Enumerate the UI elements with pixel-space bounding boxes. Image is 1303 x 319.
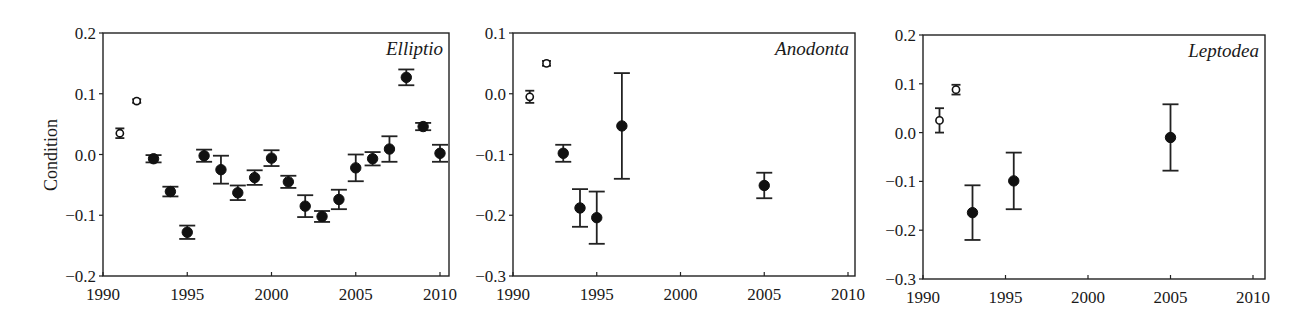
marker-filled (592, 212, 602, 222)
data-point-open (935, 108, 944, 132)
y-tick-label: −0.3 (475, 267, 506, 286)
y-tick-label: −0.2 (885, 221, 916, 240)
x-tick-label: 2010 (831, 285, 865, 304)
marker-filled (317, 211, 327, 221)
x-tick-label: 1990 (86, 285, 120, 304)
marker-filled (148, 154, 158, 164)
marker-filled (401, 72, 411, 82)
x-tick-label: 2010 (423, 285, 457, 304)
data-point-filled (1163, 104, 1179, 170)
data-point-filled (331, 190, 347, 209)
panel-anodonta: −0.3−0.2−0.10.00.119901995200020052010An… (475, 24, 865, 304)
y-tick-label: −0.1 (885, 172, 916, 191)
marker-filled (617, 121, 627, 131)
data-point-filled (572, 189, 588, 227)
marker-filled (967, 207, 977, 217)
data-point-filled (196, 150, 212, 162)
data-point-open (952, 85, 961, 95)
panel-title: Elliptio (385, 38, 443, 59)
y-tick-label: 0.1 (75, 85, 96, 104)
panel-elliptio: −0.2−0.10.00.10.219901995200020052010Ell… (65, 24, 457, 304)
marker-filled (283, 177, 293, 187)
marker-open (543, 60, 550, 67)
data-point-filled (213, 156, 229, 184)
marker-open (526, 93, 533, 100)
marker-filled (216, 164, 226, 174)
panel-leptodea: −0.3−0.2−0.10.00.10.21990199520002005201… (885, 26, 1270, 307)
data-point-filled (230, 185, 246, 200)
marker-filled (199, 151, 209, 161)
x-tick-label: 2005 (339, 285, 373, 304)
x-tick-label: 1995 (989, 288, 1023, 307)
y-tick-label: −0.3 (885, 270, 916, 289)
y-tick-label: −0.1 (475, 146, 506, 165)
data-point-open (115, 128, 124, 138)
data-point-filled (314, 211, 330, 222)
marker-filled (165, 186, 175, 196)
y-tick-label: 0.1 (485, 24, 506, 43)
y-tick-label: −0.1 (65, 206, 96, 225)
marker-filled (182, 227, 192, 237)
marker-filled (300, 201, 310, 211)
y-tick-label: 0.0 (485, 85, 506, 104)
x-tick-label: 1990 (496, 285, 530, 304)
panel-title: Anodonta (773, 38, 849, 59)
x-tick-label: 2005 (747, 285, 781, 304)
data-point-filled (162, 186, 178, 196)
marker-filled (334, 194, 344, 204)
marker-filled (1165, 132, 1175, 142)
y-tick-label: 0.0 (75, 146, 96, 165)
data-point-filled (381, 136, 397, 162)
data-point-open (542, 60, 551, 67)
data-point-filled (965, 185, 981, 240)
data-point-filled (280, 176, 296, 188)
marker-filled (435, 148, 445, 158)
x-tick-label: 1990 (906, 288, 940, 307)
data-point-filled (398, 69, 414, 85)
data-point-filled (555, 145, 571, 162)
marker-filled (233, 188, 243, 198)
data-point-filled (348, 155, 364, 182)
marker-filled (367, 154, 377, 164)
y-tick-label: 0.1 (895, 75, 916, 94)
marker-open (936, 117, 943, 124)
y-tick-label: 0.2 (895, 26, 916, 45)
plot-frame (923, 35, 1265, 279)
marker-filled (384, 144, 394, 154)
marker-filled (759, 180, 769, 190)
x-tick-label: 2000 (664, 285, 698, 304)
figure: Condition −0.2−0.10.00.10.21990199520002… (0, 0, 1303, 319)
marker-open (952, 86, 959, 93)
marker-open (116, 130, 123, 137)
y-axis-title: Condition (41, 119, 61, 191)
data-point-filled (756, 173, 772, 199)
marker-filled (558, 148, 568, 158)
marker-filled (418, 121, 428, 131)
data-point-filled (589, 192, 605, 244)
data-point-filled (365, 152, 381, 165)
data-point-filled (614, 73, 630, 179)
marker-filled (575, 203, 585, 213)
data-point-open (132, 97, 141, 104)
data-point-filled (179, 226, 195, 239)
data-point-filled (432, 145, 448, 162)
panel-title: Leptodea (1187, 40, 1259, 61)
y-tick-label: −0.2 (65, 267, 96, 286)
data-point-filled (415, 121, 431, 131)
x-tick-label: 2010 (1236, 288, 1270, 307)
data-point-filled (146, 154, 162, 164)
marker-filled (266, 153, 276, 163)
data-point-filled (247, 170, 263, 185)
x-tick-label: 2000 (1071, 288, 1105, 307)
data-point-filled (1006, 153, 1022, 210)
x-tick-label: 1995 (170, 285, 204, 304)
marker-filled (1009, 176, 1019, 186)
x-tick-label: 1995 (580, 285, 614, 304)
data-point-filled (297, 195, 313, 217)
y-tick-label: 0.0 (895, 124, 916, 143)
data-point-filled (264, 150, 280, 166)
marker-filled (249, 172, 259, 182)
y-tick-label: −0.2 (475, 206, 506, 225)
marker-open (133, 97, 140, 104)
data-point-open (525, 91, 534, 103)
